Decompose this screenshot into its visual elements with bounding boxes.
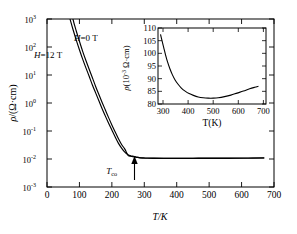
tco-label: Tco — [106, 166, 117, 177]
inset-xlabel: T(K) — [203, 118, 222, 129]
main-xtick-4: 400 — [170, 190, 185, 200]
inset-ylabel-text: ρ(10-3 Ω·cm) — [121, 45, 132, 91]
inset-xtick-2: 500 — [207, 106, 220, 116]
inset-ytick-3: 95 — [148, 61, 157, 71]
main-xtick-3: 300 — [137, 190, 152, 200]
main-ytick-0: 103 — [25, 14, 37, 25]
label-h-0T: H=0 T — [73, 33, 98, 43]
inset-plot: 300 400 500 600 700 T(K) — [121, 23, 270, 129]
inset-ytick-0: 80 — [148, 99, 157, 109]
main-x-axis-label: T/K — [152, 211, 168, 222]
inset-x-tick-labels: 300 400 500 600 700 — [157, 106, 270, 116]
main-ytick-4: 10-1 — [23, 126, 37, 137]
field-labels: H=0 T H=12 T — [33, 33, 98, 60]
h0-rest: =0 T — [81, 33, 99, 43]
label-h-12T: H=12 T — [33, 50, 63, 60]
main-xtick-1: 100 — [72, 190, 87, 200]
main-xlabel-text: T/K — [152, 211, 168, 222]
h12-rest: =12 T — [41, 50, 63, 60]
main-ylabel-text: ρ/(Ω·cm) — [7, 84, 19, 122]
main-xtick-7: 700 — [267, 190, 282, 200]
main-ytick-6: 10-3 — [23, 182, 37, 193]
inset-ytick-5: 105 — [143, 36, 156, 46]
main-ytick-3: 100 — [25, 98, 37, 109]
inset-xtick-1: 400 — [182, 106, 195, 116]
main-y-tick-labels: 103 102 101 100 10-1 10-2 10-3 — [23, 14, 37, 193]
inset-xtick-3: 600 — [232, 106, 245, 116]
main-ytick-2: 101 — [25, 70, 37, 81]
inset-ytick-4: 100 — [143, 48, 156, 58]
main-x-tick-labels: 0 100 200 300 400 500 600 700 — [45, 190, 282, 200]
inset-y-axis-label: ρ(10-3 Ω·cm) — [121, 45, 132, 91]
main-y-axis-label: ρ/(Ω·cm) — [7, 84, 19, 122]
resistivity-figure: 0 100 200 300 400 500 600 700 T/K — [0, 0, 297, 234]
inset-ytick-1: 85 — [148, 86, 157, 96]
main-xtick-0: 0 — [45, 190, 50, 200]
tco-annotation: Tco — [106, 156, 138, 180]
inset-frame — [158, 28, 266, 104]
inset-ytick-6: 110 — [144, 23, 156, 33]
inset-y-tick-labels: 80 85 90 95 100 105 110 — [143, 23, 156, 109]
main-xtick-6: 600 — [234, 190, 249, 200]
main-ytick-5: 10-2 — [23, 154, 37, 165]
main-xtick-2: 200 — [105, 190, 120, 200]
figure-svg: 0 100 200 300 400 500 600 700 T/K — [0, 0, 297, 234]
inset-xtick-0: 300 — [157, 106, 170, 116]
main-xtick-5: 500 — [202, 190, 217, 200]
inset-ytick-2: 90 — [148, 74, 157, 84]
inset-xtick-4: 700 — [257, 106, 270, 116]
